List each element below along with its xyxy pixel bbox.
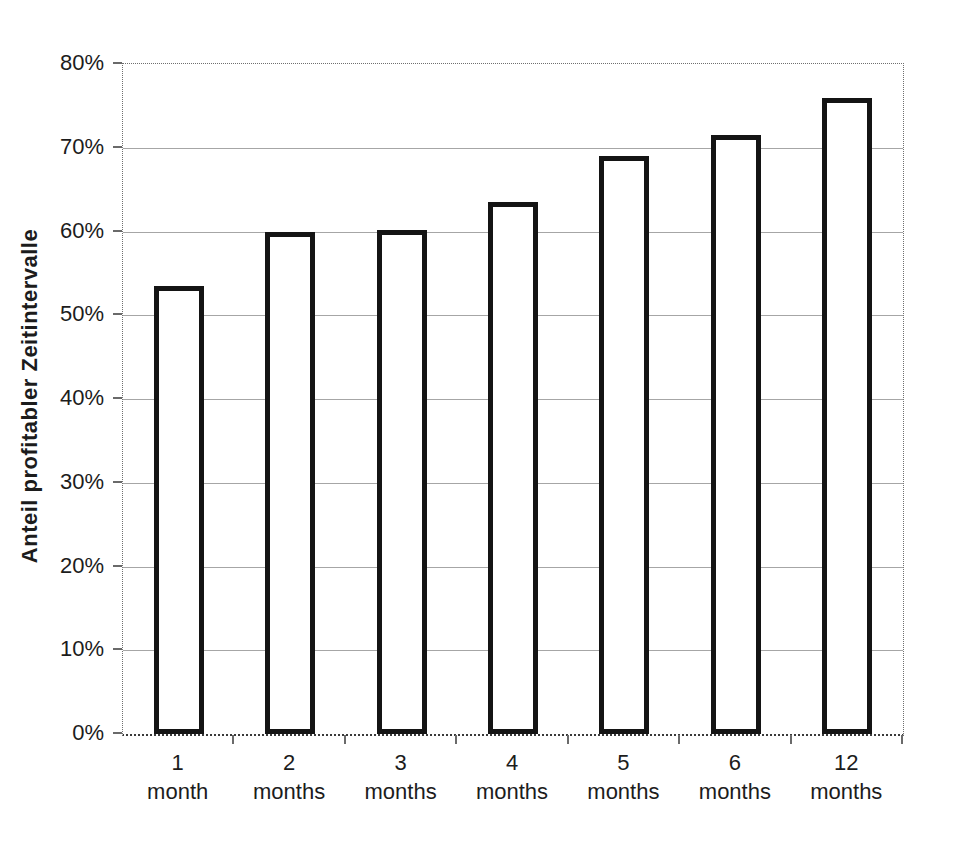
bar-2-months xyxy=(265,232,315,735)
y-tick-label: 30% xyxy=(0,469,104,495)
bar-4-months xyxy=(488,202,538,734)
y-tick-label: 0% xyxy=(0,720,104,746)
bar-5-months xyxy=(599,156,649,734)
x-tick-mark xyxy=(901,735,903,744)
gridline-70% xyxy=(123,148,903,149)
x-category-label: 12months xyxy=(776,748,916,806)
chart-figure: Anteil profitabler Zeitintervalle 0%10%2… xyxy=(0,0,953,845)
x-tick-mark xyxy=(344,735,346,744)
y-tick-mark xyxy=(113,313,122,315)
x-tick-mark xyxy=(678,735,680,744)
y-tick-mark xyxy=(113,481,122,483)
bar-1-month xyxy=(154,286,204,734)
y-tick-mark xyxy=(113,146,122,148)
y-tick-label: 50% xyxy=(0,301,104,327)
bar-3-months xyxy=(377,230,427,734)
y-tick-label: 80% xyxy=(0,50,104,76)
y-tick-mark xyxy=(113,648,122,650)
y-tick-mark xyxy=(113,732,122,734)
y-tick-mark xyxy=(113,565,122,567)
bar-12-months xyxy=(822,98,872,735)
x-category-label-line1: 12 xyxy=(776,748,916,777)
y-tick-label: 20% xyxy=(0,553,104,579)
y-tick-mark xyxy=(113,397,122,399)
y-tick-label: 10% xyxy=(0,636,104,662)
y-tick-label: 60% xyxy=(0,218,104,244)
x-tick-mark xyxy=(790,735,792,744)
y-tick-mark xyxy=(113,62,122,64)
plot-area xyxy=(122,63,904,736)
x-tick-mark xyxy=(567,735,569,744)
bar-6-months xyxy=(711,135,761,734)
x-tick-mark xyxy=(232,735,234,744)
y-tick-mark xyxy=(113,230,122,232)
y-tick-label: 40% xyxy=(0,385,104,411)
x-tick-mark xyxy=(455,735,457,744)
y-tick-label: 70% xyxy=(0,134,104,160)
x-category-label-line2: months xyxy=(776,777,916,806)
